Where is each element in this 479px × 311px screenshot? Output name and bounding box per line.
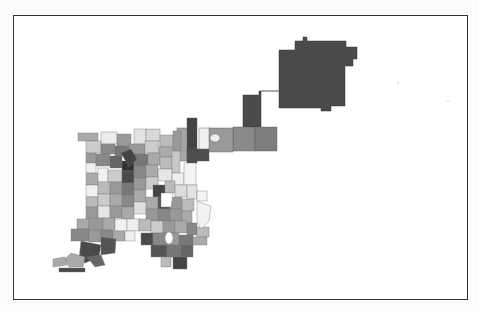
map-artifact — [447, 100, 449, 102]
map-artifact — [397, 82, 399, 84]
airport-region — [243, 37, 357, 127]
map-frame — [13, 15, 468, 300]
choropleth-map — [14, 16, 469, 301]
corridor-region — [177, 118, 277, 163]
